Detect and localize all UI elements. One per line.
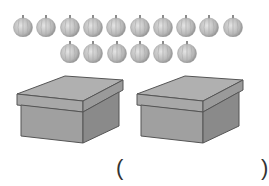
ornament-icon [13, 15, 33, 35]
ornament-icon [60, 15, 80, 35]
ornament-icon [107, 41, 127, 61]
answer-close-paren: ) [261, 157, 268, 179]
box-icon [135, 74, 245, 146]
ornament-icon [223, 15, 243, 35]
answer-open-paren: ( [116, 157, 123, 179]
ornament-icon [177, 41, 197, 61]
ornament-icon [60, 41, 80, 61]
ornament-icon [130, 41, 150, 61]
ornament-icon [130, 15, 150, 35]
ornament-icon [106, 15, 126, 35]
ornament-icon [176, 15, 196, 35]
ornament-icon [199, 15, 219, 35]
answer-blank[interactable] [130, 160, 260, 180]
box-icon [15, 74, 125, 146]
ornament-icon [83, 41, 103, 61]
ornament-icon [83, 15, 103, 35]
ornament-icon [153, 15, 173, 35]
ornament-icon [36, 15, 56, 35]
ornament-icon [153, 41, 173, 61]
